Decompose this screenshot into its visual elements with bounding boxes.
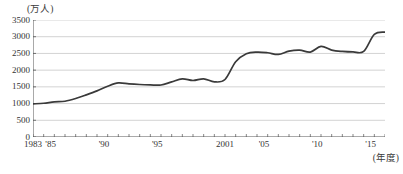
x-tick-label: '10 xyxy=(312,140,323,149)
x-tick-label: 1983 xyxy=(24,140,42,149)
x-tick-label: '95 xyxy=(152,140,163,149)
plot-area xyxy=(33,20,385,137)
x-tick-label: '90 xyxy=(99,140,110,149)
chart-figure: (万人) (年度) 0500100015002000250030003500 1… xyxy=(0,0,403,174)
x-tick-label: '15 xyxy=(365,140,376,149)
gridlines xyxy=(33,20,385,120)
x-tick-label: '85 xyxy=(45,140,56,149)
x-axis-ticks xyxy=(33,20,385,137)
x-tick-label: '05 xyxy=(259,140,270,149)
data-series-line xyxy=(33,32,385,104)
x-tick-label: 2001 xyxy=(216,140,234,149)
line-chart-svg xyxy=(33,20,385,137)
